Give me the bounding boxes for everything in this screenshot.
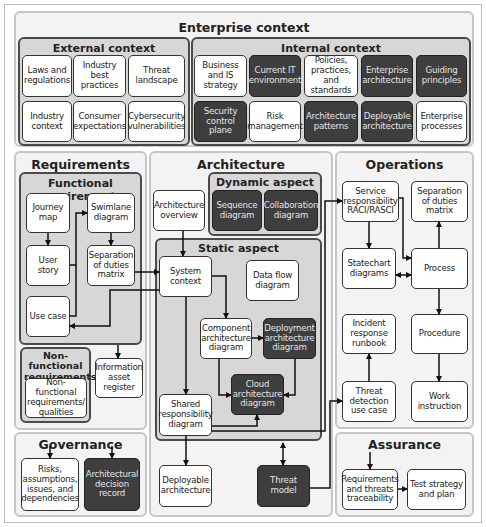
enterprise-context-title: Enterprise context xyxy=(16,20,472,35)
box-use-case: Use case xyxy=(26,296,70,337)
box-consumer-expectations: Consumer expectations xyxy=(73,101,126,142)
box-security-control-plane: Security control plane xyxy=(194,101,247,142)
static-aspect-title: Static aspect xyxy=(157,242,320,255)
box-architecture-patterns: Architecture patterns xyxy=(304,101,358,142)
box-journey-map: Journey map xyxy=(26,193,70,233)
box-policies-practices-standards: Policies, practices, and standards xyxy=(304,55,358,97)
box-system-context: System context xyxy=(159,256,212,297)
box-work-instruction: Work instruction xyxy=(411,381,468,422)
box-laws-and-regulations: Laws and regulations xyxy=(22,55,72,97)
box-current-it-environment: Current IT environment xyxy=(249,55,301,97)
box-non-functional-qualities: Non-functional requirements/ qualities xyxy=(25,378,87,418)
box-information-asset-register: Information asset register xyxy=(95,358,143,398)
box-process: Process xyxy=(411,248,468,289)
box-risks-assumptions: Risks, assumptions, issues, and dependen… xyxy=(21,458,79,511)
architecture-title: Architecture xyxy=(151,157,331,172)
box-separation-of-duties-matrix-ops: Separation of duties matrix xyxy=(411,181,468,222)
box-requirements-threats-traceability: Requirements and threats traceability xyxy=(342,469,398,510)
box-collaboration-diagram: Collaboration diagram xyxy=(264,190,318,231)
box-component-architecture-diagram: Component architecture diagram xyxy=(200,318,252,359)
external-context-title: External context xyxy=(20,42,188,55)
box-industry-context: Industry context xyxy=(22,101,72,142)
box-threat-detection-use-case: Threat detection use case xyxy=(342,381,396,422)
box-test-strategy-and-plan: Test strategy and plan xyxy=(407,469,466,510)
box-user-story: User story xyxy=(26,245,70,286)
operations-title: Operations xyxy=(337,157,472,172)
box-guiding-principles: Guiding principles xyxy=(416,55,467,97)
box-cloud-architecture-diagram: Cloud architecture diagram xyxy=(231,374,284,415)
box-threat-model: Threat model xyxy=(257,465,310,507)
box-shared-responsibility-diagram: Shared responsibility diagram xyxy=(159,394,212,436)
box-separation-of-duties-matrix-req: Separation of duties matrix xyxy=(87,245,135,286)
requirements-title: Requirements xyxy=(16,157,145,172)
box-industry-best-practices: Industry best practices xyxy=(73,55,126,97)
box-sequence-diagram: Sequence diagram xyxy=(212,190,262,231)
box-cybersecurity-vulnerabilities: Cybersecurity vulnerabilities xyxy=(128,101,185,142)
assurance-title: Assurance xyxy=(337,437,472,452)
box-statechart-diagrams: Statechart diagrams xyxy=(342,248,396,289)
box-enterprise-processes: Enterprise processes xyxy=(416,101,467,142)
box-enterprise-architecture: Enterprise architecture xyxy=(361,55,413,97)
box-deployable-architecture-ic: Deployable architecture xyxy=(361,101,413,142)
box-architecture-overview: Architecture overview xyxy=(153,190,205,231)
box-procedure: Procedure xyxy=(411,314,468,354)
box-swimlane-diagram: Swimlane diagram xyxy=(87,193,135,233)
box-incident-response-runbook: Incident response runbook xyxy=(342,314,396,354)
internal-context-title: Internal context xyxy=(193,42,469,55)
box-risk-management: Risk management xyxy=(249,101,301,142)
box-threat-landscape: Threat landscape xyxy=(128,55,185,97)
box-service-responsibility-raci: Service responsibility RACI/RASCI xyxy=(342,181,399,222)
box-deployable-architecture: Deployable architecture xyxy=(159,465,212,507)
box-business-is-strategy: Business and IS strategy xyxy=(194,55,247,97)
dynamic-aspect-title: Dynamic aspect xyxy=(210,176,320,189)
box-data-flow-diagram: Data flow diagram xyxy=(246,260,299,301)
box-deployment-architecture-diagram: Deployment architecture diagram xyxy=(263,318,316,359)
box-architectural-decision-record: Architectural decision record xyxy=(84,458,140,511)
governance-title: Governance xyxy=(16,437,145,452)
